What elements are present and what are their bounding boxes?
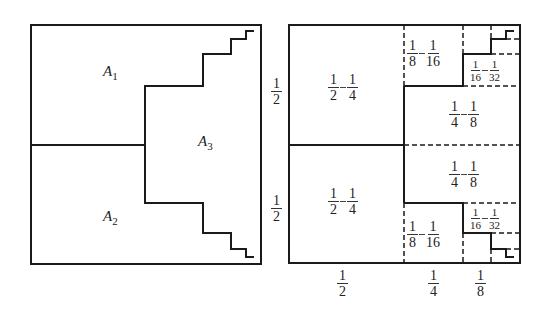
left-diagram	[31, 25, 261, 264]
region-a1-label: A1	[103, 63, 118, 82]
region-a3-label: A3	[198, 133, 213, 152]
bottom-label-half: 12	[337, 268, 348, 299]
bottom-label-eighth: 18	[475, 268, 486, 299]
cell-bottom-quarter: 14 18	[449, 159, 479, 190]
bottom-label-quarter: 14	[428, 268, 439, 299]
cell-bottom-half: 12 14	[328, 186, 358, 217]
cell-top-sixteenth: 116 132	[470, 58, 500, 83]
region-a2-label: A2	[103, 208, 118, 227]
side-label-top: 12	[271, 76, 282, 107]
cell-top-half: 12 14	[328, 72, 358, 103]
cell-top-eighth: 18 116	[407, 38, 440, 69]
cell-top-quarter: 14 18	[449, 99, 479, 130]
cell-bottom-eighth: 18 116	[407, 219, 440, 250]
side-label-bottom: 12	[271, 193, 282, 224]
cell-bottom-sixteenth: 116 132	[470, 206, 500, 231]
diagram-canvas	[0, 0, 549, 314]
